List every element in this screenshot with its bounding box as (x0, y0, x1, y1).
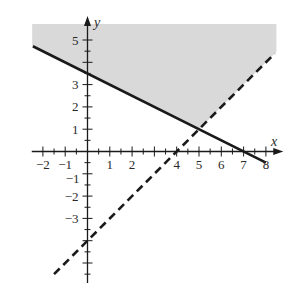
shaded-polygon (32, 24, 276, 129)
y-axis-arrow-icon (84, 16, 91, 26)
y-tick-label: −1 (66, 171, 80, 186)
y-tick-label: 2 (72, 99, 79, 114)
x-tick-label: 6 (218, 157, 225, 172)
x-axis-arrow-icon (273, 148, 283, 155)
y-tick-label: 1 (72, 122, 79, 137)
x-tick-label: 5 (196, 157, 203, 172)
x-tick-label: −1 (58, 157, 72, 172)
inequality-graph: −2−112456785321−1−2−3 x y (0, 0, 296, 295)
shaded-region (32, 24, 276, 129)
y-tick-label: −3 (65, 211, 79, 226)
x-axis-label: x (270, 134, 278, 149)
x-tick-label: 8 (263, 157, 270, 172)
y-tick-label: 5 (72, 33, 79, 48)
x-tick-label: 1 (107, 157, 114, 172)
y-tick-label: −2 (65, 189, 79, 204)
y-axis-label: y (92, 15, 101, 30)
x-tick-label: 7 (240, 157, 247, 172)
x-tick-label: 2 (129, 157, 136, 172)
x-tick-label: −2 (36, 157, 50, 172)
x-tick-label: 4 (173, 157, 180, 172)
y-tick-label: 3 (72, 77, 79, 92)
